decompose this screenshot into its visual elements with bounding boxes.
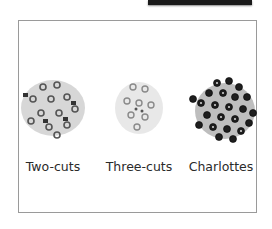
bead-comparison-figure: Two-cuts Three-cuts: [18, 20, 257, 213]
item-three-cuts: Three-cuts: [99, 21, 179, 211]
three-cuts-bead-pile-image: [99, 73, 179, 143]
two-cuts-bead-pile-image: [13, 73, 93, 143]
charlottes-bead-pile-image: [181, 73, 261, 143]
charlottes-label: Charlottes: [181, 159, 261, 174]
item-two-cuts: Two-cuts: [13, 21, 93, 211]
three-cuts-label: Three-cuts: [99, 159, 179, 174]
item-charlottes: Charlottes: [181, 21, 261, 211]
two-cuts-label: Two-cuts: [13, 159, 93, 174]
header-bar: [148, 0, 252, 5]
